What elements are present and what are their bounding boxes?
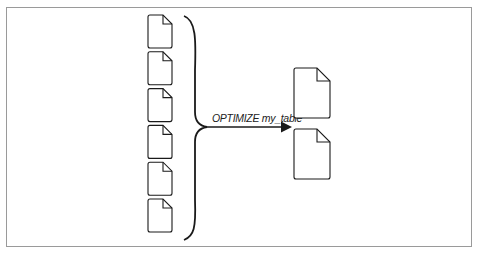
input-file-icon <box>148 89 172 122</box>
input-file-icon <box>148 199 172 232</box>
input-file-icon <box>148 15 172 48</box>
input-file-icon <box>148 162 172 195</box>
input-file-icon <box>148 52 172 85</box>
merge-brace <box>184 16 207 240</box>
input-files-group <box>148 15 172 232</box>
optimize-diagram: OPTIMIZE my_table <box>0 0 478 256</box>
operation-label: OPTIMIZE my_table <box>212 112 302 124</box>
output-file-icon <box>294 68 330 118</box>
output-file-icon <box>294 129 330 179</box>
input-file-icon <box>148 125 172 158</box>
